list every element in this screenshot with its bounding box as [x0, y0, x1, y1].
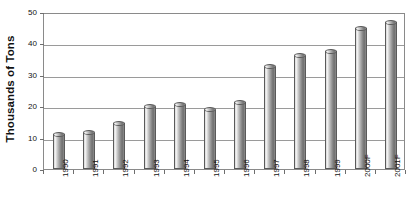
y-axis-tick-label: 10 — [19, 135, 37, 143]
y-axis-tick-label: 40 — [19, 40, 37, 48]
y-axis-title: Thousands of Tons — [0, 0, 20, 178]
x-axis-tick-label-slot: 1997 — [254, 175, 284, 224]
x-axis-tick-label: 1991 — [92, 159, 100, 177]
bar-slot — [44, 14, 74, 169]
x-axis-tick-label-slot: 1996 — [224, 175, 254, 224]
bar[interactable] — [355, 28, 367, 169]
x-axis-tick-label-slot: 1991 — [73, 175, 103, 224]
x-axis-tick-label-slot: 1993 — [134, 175, 164, 224]
x-axis-tick-mark — [284, 170, 285, 174]
x-axis-tick-mark — [103, 170, 104, 174]
bar[interactable] — [385, 22, 397, 169]
y-axis-tick-label: 30 — [19, 72, 37, 80]
x-axis-tick-label: 1992 — [122, 159, 130, 177]
bar-slot — [104, 14, 134, 169]
x-axis-tick-label-slot: 1992 — [103, 175, 133, 224]
x-axis-tick-label: 2000F — [364, 154, 372, 177]
x-axis-tick-label: 1999 — [334, 159, 342, 177]
y-axis-tick-mark — [40, 107, 44, 108]
x-axis-tick-label: 1990 — [62, 159, 70, 177]
y-axis-tick-mark — [40, 13, 44, 14]
bar-slot — [285, 14, 315, 169]
bar-slot — [74, 14, 104, 169]
y-axis-tick-labels: 01020304050 — [20, 0, 40, 178]
bar-slot — [346, 14, 376, 169]
y-axis-tick-label: 20 — [19, 103, 37, 111]
plot-area — [43, 13, 405, 170]
y-axis-tick-mark — [40, 44, 44, 45]
x-axis-tick-mark — [73, 170, 74, 174]
x-axis-tick-mark — [164, 170, 165, 174]
bar-slot — [165, 14, 195, 169]
y-axis-tick-label: 50 — [19, 9, 37, 17]
bar[interactable] — [264, 67, 276, 169]
x-axis-tick-label-slot: 2000F — [345, 175, 375, 224]
bar-slot — [195, 14, 225, 169]
x-axis-tick-label-slot: 1994 — [164, 175, 194, 224]
y-axis-tick-mark — [40, 139, 44, 140]
x-axis-tick-label: 1996 — [243, 159, 251, 177]
bar-slot — [316, 14, 346, 169]
x-axis-tick-label: 1997 — [273, 159, 281, 177]
x-axis-tick-mark — [254, 170, 255, 174]
x-axis-tick-label: 2001F — [394, 154, 402, 177]
y-axis-tick-label: 0 — [19, 166, 37, 174]
x-axis-tick-label: 1998 — [303, 159, 311, 177]
x-axis-tick-mark — [375, 170, 376, 174]
bar-slot — [255, 14, 285, 169]
y-axis-tick-mark — [40, 170, 44, 171]
x-axis-tick-mark — [315, 170, 316, 174]
bar-slot — [135, 14, 165, 169]
x-axis-tick-mark — [224, 170, 225, 174]
x-axis-tick-mark — [345, 170, 346, 174]
bar-chart: Thousands of Tons 01020304050 1990199119… — [0, 0, 419, 224]
bar[interactable] — [294, 56, 306, 169]
x-axis-tick-mark — [134, 170, 135, 174]
x-axis-tick-mark — [194, 170, 195, 174]
x-axis-tick-mark — [405, 170, 406, 174]
x-axis-tick-labels: 1990199119921993199419951996199719981999… — [43, 175, 405, 224]
y-axis-tick-mark — [40, 76, 44, 77]
bars-layer — [44, 14, 404, 169]
x-axis-tick-label-slot: 1995 — [194, 175, 224, 224]
bar-slot — [225, 14, 255, 169]
x-axis-tick-label: 1993 — [153, 159, 161, 177]
bar-slot — [376, 14, 406, 169]
x-axis-tick-label: 1994 — [183, 159, 191, 177]
x-axis-tick-label-slot: 2001F — [375, 175, 405, 224]
x-axis-tick-label-slot: 1998 — [284, 175, 314, 224]
bar[interactable] — [325, 51, 337, 169]
y-axis-title-label: Thousands of Tons — [4, 36, 16, 143]
x-axis-tick-label-slot: 1999 — [315, 175, 345, 224]
x-axis-tick-label-slot: 1990 — [43, 175, 73, 224]
x-axis-tick-label: 1995 — [213, 159, 221, 177]
